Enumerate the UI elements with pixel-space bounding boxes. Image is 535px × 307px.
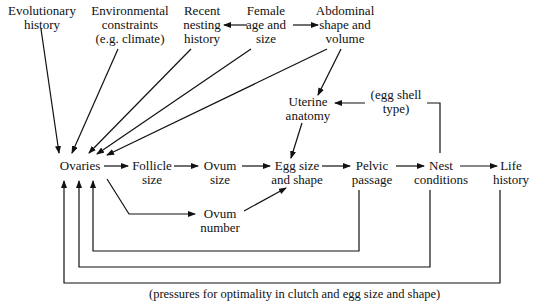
arrow-ovum-number-to-egg: [244, 188, 286, 211]
node-life-history: Life history: [490, 159, 532, 187]
caption-optimality-pressures: (pressures for optimality in clutch and …: [149, 287, 440, 302]
node-environmental-constraints: Environmental constraints (e.g. climate): [86, 4, 174, 46]
node-recent-nesting-history: Recent nesting history: [178, 4, 226, 46]
node-ovaries: Ovaries: [57, 159, 103, 173]
node-follicle-size: Follicle size: [129, 159, 175, 187]
connector-arrows: [0, 0, 535, 307]
node-evolutionary-history: Evolutionary history: [2, 4, 82, 32]
node-ovum-number: Ovum number: [196, 207, 244, 235]
feedback-nest-to-ovaries: [79, 181, 430, 267]
feedback-life-to-ovaries: [64, 181, 500, 283]
node-nest-conditions: Nest conditions: [411, 159, 471, 187]
label-egg-shell-type: (egg shell type): [365, 88, 427, 116]
node-pelvic-passage: Pelvic passage: [348, 159, 396, 187]
node-female-age-size: Female age and size: [240, 4, 292, 46]
node-uterine-anatomy: Uterine anatomy: [280, 95, 336, 123]
arrow-evolutionary-to-ovaries: [41, 29, 59, 153]
arrow-female-to-ovaries: [97, 49, 251, 154]
node-abdominal-shape-volume: Abdominal shape and volume: [311, 4, 379, 46]
arrow-uterine-to-egg: [291, 123, 302, 158]
arrow-environment-to-ovaries: [72, 49, 118, 153]
arrow-abdominal-to-uterine: [318, 49, 341, 95]
node-ovum-size: Ovum size: [199, 159, 241, 187]
node-egg-size-shape: Egg size and shape: [268, 159, 326, 187]
